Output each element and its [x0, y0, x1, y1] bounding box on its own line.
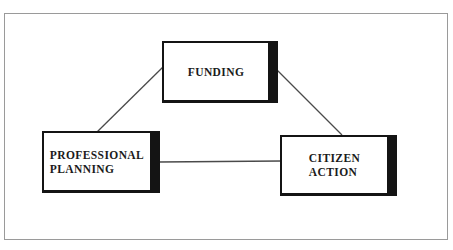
diagram-canvas: FUNDING PROFESSIONAL PLANNING CITIZEN AC… [0, 0, 453, 250]
node-citizen-action-label-line2: ACTION [309, 165, 360, 179]
node-funding-label: FUNDING [188, 66, 244, 78]
connector-lines [0, 0, 453, 250]
node-funding: FUNDING [162, 41, 278, 103]
node-professional-planning-label-line1: PROFESSIONAL [50, 148, 144, 162]
node-professional-planning: PROFESSIONAL PLANNING [42, 131, 160, 193]
node-citizen-action-label-line1: CITIZEN [309, 151, 360, 165]
edge-funding-to-citizen-action [277, 70, 342, 135]
node-professional-planning-label-line2: PLANNING [50, 162, 144, 176]
edge-professional-planning-to-citizen-action [159, 161, 281, 162]
node-citizen-action: CITIZEN ACTION [280, 135, 397, 196]
edge-professional-planning-to-funding [97, 67, 163, 132]
